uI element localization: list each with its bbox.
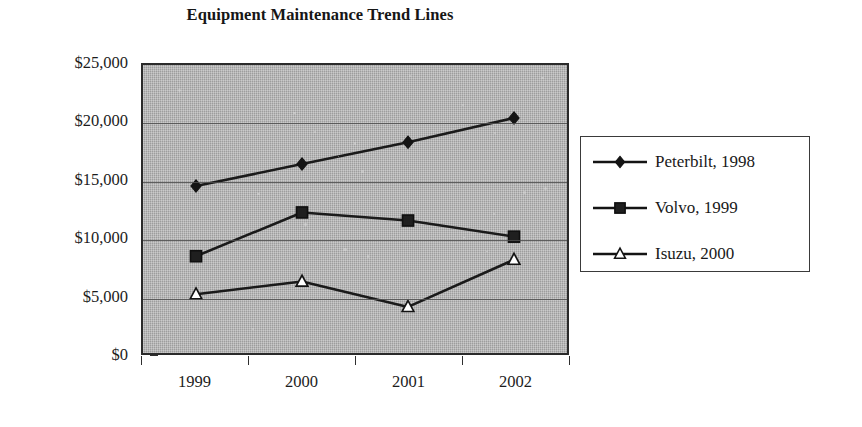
scan-speck	[523, 191, 526, 194]
scan-speck	[486, 251, 488, 253]
marker-triangle	[508, 253, 520, 264]
plot-area	[141, 63, 569, 355]
scan-speck	[541, 77, 544, 80]
scan-speck	[304, 223, 307, 226]
legend-item: Isuzu, 2000	[591, 243, 734, 265]
chart-legend: Peterbilt, 1998Volvo, 1999Isuzu, 2000	[580, 136, 810, 272]
marker-square	[190, 251, 201, 262]
x-tick-mark	[569, 356, 570, 365]
x-tick-label: 2001	[364, 372, 454, 392]
y-tick-label: $20,000	[20, 113, 128, 129]
plot-svg	[143, 65, 567, 353]
gridline	[143, 240, 567, 241]
series-line	[196, 118, 514, 186]
series-line	[196, 260, 514, 307]
marker-square	[615, 203, 625, 213]
marker-diamond	[297, 158, 307, 170]
scan-speck	[494, 132, 496, 134]
y-tick-label: $15,000	[20, 172, 128, 188]
y-tick-mark	[150, 355, 158, 356]
legend-marker	[591, 152, 649, 172]
marker-triangle	[296, 275, 308, 286]
series-3	[190, 253, 520, 311]
scan-speck	[493, 213, 495, 215]
legend-marker	[591, 244, 649, 264]
gridline	[143, 299, 567, 300]
y-tick-label: $5,000	[20, 289, 128, 305]
marker-square	[402, 215, 413, 226]
y-tick-label: $10,000	[20, 230, 128, 246]
marker-square	[296, 207, 307, 218]
series-2	[190, 207, 519, 262]
x-tick-label: 2002	[471, 372, 561, 392]
legend-label: Peterbilt, 1998	[649, 152, 755, 172]
y-axis: $25,000$20,000$15,000$10,000$5,000$0	[18, 0, 128, 427]
gridline	[143, 182, 567, 183]
legend-item: Volvo, 1999	[591, 197, 738, 219]
series-line	[196, 212, 514, 256]
y-tick-label: $25,000	[20, 55, 128, 71]
scan-speck	[393, 305, 394, 306]
legend-marker	[591, 198, 649, 218]
legend-item: Peterbilt, 1998	[591, 151, 755, 173]
x-tick-label: 1999	[150, 372, 240, 392]
marker-diamond	[509, 112, 519, 124]
x-tick-mark	[248, 356, 249, 365]
scan-speck	[361, 170, 364, 173]
scan-speck	[338, 156, 339, 157]
marker-diamond	[615, 156, 624, 167]
x-tick-mark	[355, 356, 356, 365]
y-tick-label: $0	[20, 347, 128, 363]
x-tick-mark	[141, 356, 142, 365]
x-tick-mark	[462, 356, 463, 365]
x-tick-label: 2000	[257, 372, 347, 392]
gridline	[143, 123, 567, 124]
marker-diamond	[403, 136, 413, 148]
legend-label: Volvo, 1999	[649, 198, 738, 218]
scan-speck	[252, 328, 254, 330]
legend-label: Isuzu, 2000	[649, 244, 734, 264]
scan-speck	[178, 89, 181, 92]
chart-figure: Equipment Maintenance Trend Lines $25,00…	[0, 0, 862, 427]
